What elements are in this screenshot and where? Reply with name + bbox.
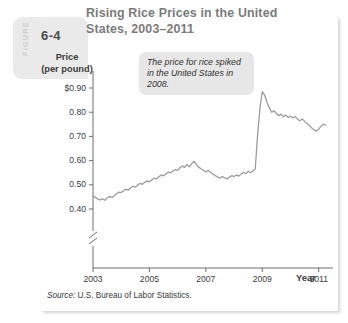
y-tick-label: 0.70: [40, 131, 86, 141]
data-series-layer: [93, 92, 326, 201]
y-tick-label: 0.50: [40, 179, 86, 189]
annotation-callout: The price for rice spiked in the United …: [139, 52, 254, 95]
y-tick-label: 0.80: [40, 107, 86, 117]
axis-layer: [89, 71, 333, 268]
source-note: Source: U.S. Bureau of Labor Statistics.: [47, 291, 192, 300]
figure-badge-word: FIGURE: [21, 15, 30, 63]
source-label: Source:: [47, 291, 75, 300]
figure-container: FIGURE 6-4 Rising Rice Prices in the Uni…: [0, 0, 348, 323]
x-axis-title: Year: [296, 272, 316, 283]
y-tick-label: 0.40: [40, 204, 86, 214]
x-tick-label: 2007: [186, 274, 226, 284]
y-tick-label: 0.60: [40, 155, 86, 165]
x-tick-label: 2003: [73, 274, 113, 284]
source-text: U.S. Bureau of Labor Statistics.: [78, 291, 192, 300]
x-tick-label: 2009: [242, 274, 282, 284]
chart-title: Rising Rice Prices in the United States,…: [86, 6, 301, 37]
y-tick-label: $0.90: [40, 83, 86, 93]
x-tick-label: 2005: [129, 274, 169, 284]
